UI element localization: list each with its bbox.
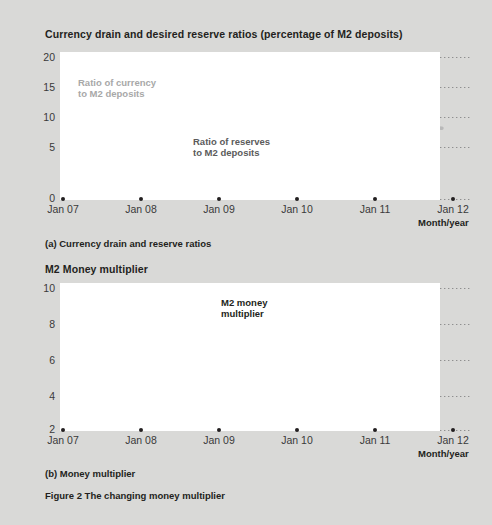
panel-a-xtick-jan11: Jan 11: [360, 203, 391, 215]
panel-b-xdot-5: [451, 428, 455, 432]
panel-b-title: M2 Money multiplier: [45, 263, 148, 275]
panel-a-annotation-currency-line2: to M2 deposits: [78, 88, 145, 99]
panel-a-annotation-reserves: Ratio of reserves to M2 deposits: [193, 137, 270, 158]
panel-a-annotation-reserves-line1: Ratio of reserves: [193, 136, 270, 147]
panel-a-xtick-jan09: Jan 09: [203, 203, 235, 215]
panel-b-ytick-10: 10: [33, 282, 55, 294]
panel-b-xtick-jan12: Jan 12: [437, 434, 469, 446]
figure-container: Currency drain and desired reserve ratio…: [0, 0, 492, 525]
panel-b-xdot-2: [217, 428, 221, 432]
panel-a-ytick-20: 20: [33, 51, 55, 63]
panel-b-xtick-jan08: Jan 08: [125, 434, 157, 446]
panel-b-ytick-6: 6: [33, 354, 55, 366]
panel-b-caption: (b) Money multiplier: [45, 468, 135, 479]
panel-a-ytick-10: 10: [33, 111, 55, 123]
panel-b-plot: M2 money multiplier: [60, 283, 472, 431]
panel-b-xtick-jan07: Jan 07: [47, 434, 79, 446]
panel-a-xtick-jan07: Jan 07: [47, 203, 79, 215]
panel-a-xdot-0: [61, 197, 65, 201]
panel-a-xdot-1: [139, 197, 143, 201]
panel-b-xdot-3: [295, 428, 299, 432]
panel-a-annotation-reserves-line2: to M2 deposits: [193, 147, 260, 158]
panel-a-xdot-4: [373, 197, 377, 201]
panel-a-xtick-jan10: Jan 10: [281, 203, 313, 215]
panel-b-xdot-4: [373, 428, 377, 432]
panel-a-xdot-3: [295, 197, 299, 201]
panel-b-ytick-4: 4: [33, 390, 55, 402]
panel-a-xtick-jan08: Jan 08: [125, 203, 157, 215]
panel-b-xdot-1: [139, 428, 143, 432]
panel-b-xtick-jan11: Jan 11: [360, 434, 391, 446]
panel-a-annotation-currency: Ratio of currency to M2 deposits: [78, 78, 156, 99]
panel-b-annotation-line2: multiplier: [221, 308, 264, 319]
panel-a-xtick-jan12: Jan 12: [437, 203, 469, 215]
panel-b-xdot-0: [61, 428, 65, 432]
panel-a-annotation-currency-line1: Ratio of currency: [78, 77, 156, 88]
panel-a-title: Currency drain and desired reserve ratio…: [45, 28, 403, 40]
panel-a-axis-note: Month/year: [418, 217, 469, 228]
panel-a-plot-background: [60, 52, 440, 200]
panel-b-xtick-jan09: Jan 09: [203, 434, 235, 446]
panel-a-xdot-5: [451, 197, 455, 201]
panel-b-annotation-line1: M2 money: [221, 297, 267, 308]
panel-a-caption: (a) Currency drain and reserve ratios: [45, 238, 211, 249]
panel-b-annotation: M2 money multiplier: [221, 298, 267, 319]
panel-b-axis-note: Month/year: [418, 448, 469, 459]
figure-caption: Figure 2 The changing money multiplier: [45, 490, 225, 501]
panel-a-xdot-2: [217, 197, 221, 201]
panel-a-ytick-15: 15: [33, 81, 55, 93]
panel-b-ytick-8: 8: [33, 318, 55, 330]
panel-a-plot: Ratio of currency to M2 deposits Ratio o…: [60, 52, 472, 200]
panel-b-xtick-jan10: Jan 10: [281, 434, 313, 446]
panel-a-ytick-5: 5: [33, 141, 55, 153]
